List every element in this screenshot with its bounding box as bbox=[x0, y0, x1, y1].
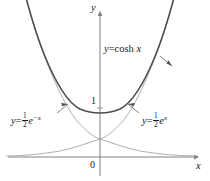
curve-exp-negative bbox=[6, 0, 198, 156]
label-exp-negative-denominator: 2 bbox=[22, 120, 28, 129]
hyperbolic-cosine-figure: y=cosh x y=12e−x y=12ex y x 1 0 bbox=[0, 0, 210, 181]
label-cosh-variable: x bbox=[136, 43, 141, 54]
label-exp-negative-numerator: 1 bbox=[22, 112, 28, 120]
origin-label: 0 bbox=[90, 160, 95, 170]
label-exp-positive-denominator: 2 bbox=[153, 120, 159, 129]
label-exp-negative: y=12e−x bbox=[11, 112, 41, 128]
label-exp-positive-equals: = bbox=[147, 115, 153, 126]
label-exp-positive-numerator: 1 bbox=[153, 112, 159, 120]
leader-arrowhead-cosh bbox=[167, 60, 172, 66]
plot-canvas bbox=[0, 0, 210, 181]
y-axis-label: y bbox=[91, 3, 96, 14]
label-cosh: y=cosh x bbox=[104, 44, 141, 55]
label-cosh-rhs: cosh bbox=[115, 43, 134, 54]
label-exp-negative-equals: = bbox=[16, 115, 22, 126]
label-exp-positive-fraction: 12 bbox=[153, 112, 159, 128]
label-exp-negative-fraction: 12 bbox=[22, 112, 28, 128]
label-exp-positive: y=12ex bbox=[142, 112, 167, 128]
label-exp-positive-exponent: x bbox=[164, 114, 167, 122]
label-exp-negative-exponent: −x bbox=[33, 114, 41, 122]
x-axis-label: x bbox=[196, 161, 201, 172]
y-tick-label-one: 1 bbox=[91, 96, 96, 106]
